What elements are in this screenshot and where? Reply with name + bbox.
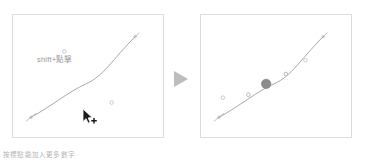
curve-endpoint-start[interactable] [26,113,36,121]
curve-endpoint-end[interactable] [319,33,327,41]
figure-row: shift+點擊 [0,0,367,148]
scatter-point[interactable] [221,96,225,100]
scatter-point[interactable] [110,101,114,105]
figure-root: shift+點擊 [0,0,367,162]
shift-click-hint-label: shift+點擊 [37,54,71,65]
curve-anchor-point[interactable] [284,72,288,76]
bezier-curve[interactable] [31,37,135,118]
panel-after[interactable] [200,14,352,138]
figure-caption: 按標點能加入更多數字 [3,150,75,159]
bezier-curve[interactable] [219,37,323,118]
curve-endpoint-start[interactable] [214,113,224,121]
curve-endpoint-end[interactable] [131,33,139,41]
panel-before[interactable]: shift+點擊 [12,14,164,138]
cursor-arrow [83,109,92,123]
scatter-point[interactable] [63,50,67,54]
scatter-point[interactable] [304,58,308,62]
plus-badge [91,118,97,124]
selected-point[interactable] [261,79,270,88]
triangle-right-icon [170,68,192,90]
curve-canvas-after[interactable] [201,15,351,137]
pointer-add-icon [79,108,101,130]
curve-anchor-point[interactable] [247,93,251,97]
